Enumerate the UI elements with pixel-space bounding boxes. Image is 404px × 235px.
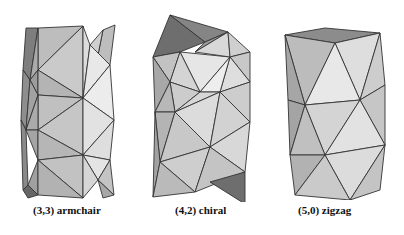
zigzag-nanotube-illustration xyxy=(280,25,390,200)
caption-armchair: (3,3) armchair xyxy=(33,204,101,216)
armchair-nanotube-illustration xyxy=(18,20,123,200)
figure: (3,3) armchair (4,2) chiral (5,0) zigzag xyxy=(0,0,404,235)
chiral-nanotube-illustration xyxy=(150,12,260,202)
caption-chiral: (4,2) chiral xyxy=(175,204,226,216)
caption-zigzag: (5,0) zigzag xyxy=(298,204,351,216)
